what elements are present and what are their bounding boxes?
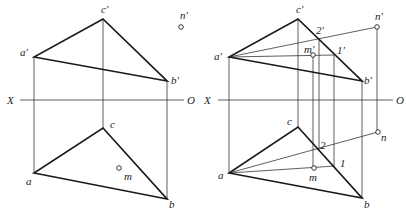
vertex-c-elevation-label: c' (296, 3, 304, 15)
point-label: n' (180, 9, 189, 21)
auxiliary-line-elevation (229, 27, 377, 57)
vertex-a-elevation-label: a' (20, 46, 29, 58)
vertex-c-plan-label: c (287, 115, 292, 127)
triangle-abc-elevation (34, 19, 167, 81)
axis-x-label: X (6, 94, 15, 106)
vertex-c-elevation-label: c' (101, 3, 109, 15)
right-projection-view: XOa'b'c'n'm'2'1'abcnm21 (203, 3, 404, 209)
point-marker-icon (375, 25, 380, 30)
point-marker-icon (179, 25, 184, 30)
auxiliary-line-elevation (229, 55, 334, 57)
vertex-b-plan-label: b (364, 198, 370, 209)
left-projection-view: XOa'b'c'n'abcm (6, 3, 195, 209)
point-label: 1' (337, 44, 346, 56)
point-label: m (124, 170, 132, 182)
auxiliary-line-plan (229, 132, 378, 173)
triangle-abc-plan (34, 128, 167, 199)
point-label: m (309, 171, 317, 183)
vertex-a-plan-label: a (26, 175, 32, 187)
vertex-a-plan-label: a (218, 169, 224, 181)
vertex-b-elevation-label: b' (171, 74, 180, 86)
auxiliary-line-plan (229, 166, 335, 173)
vertex-a-elevation-label: a' (214, 50, 223, 62)
point-label: n' (375, 10, 384, 22)
axis-o-label: O (187, 94, 195, 106)
point-marker-icon (376, 130, 381, 135)
point-marker-icon (117, 166, 122, 171)
point-label: 1 (340, 157, 346, 169)
point-label: 2' (316, 24, 325, 36)
vertex-c-plan-label: c (110, 118, 115, 130)
axis-o-label: O (396, 94, 404, 106)
vertex-b-plan-label: b (169, 198, 175, 209)
point-label: m' (304, 43, 315, 55)
projection-diagram: XOa'b'c'n'abcm XOa'b'c'n'm'2'1'abcnm21 (0, 0, 406, 209)
vertex-b-elevation-label: b' (364, 74, 373, 86)
point-label: 2 (320, 139, 326, 151)
point-label: n (381, 131, 387, 143)
axis-x-label: X (203, 94, 212, 106)
point-marker-icon (312, 166, 317, 171)
